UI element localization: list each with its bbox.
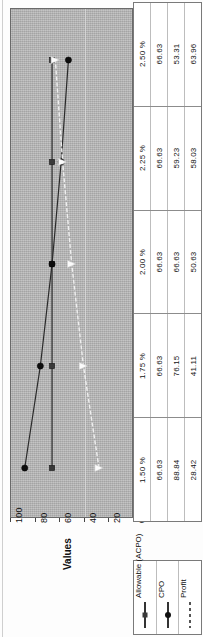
axis-tick xyxy=(35,518,36,522)
data-point xyxy=(37,363,43,369)
table-cell-allowable-text: 66.63 xyxy=(155,459,164,480)
data-table: 1.50 %66.6388.8428.421.75 %66.6376.1541.… xyxy=(133,2,202,522)
figure-left-rule xyxy=(2,0,3,637)
chart-figure: 020406080100 Promotion % Response Values… xyxy=(0,0,203,637)
axis-tick xyxy=(59,518,60,522)
table-cell-cpo-text: 88.84 xyxy=(172,459,181,480)
data-point xyxy=(22,465,28,471)
table-cell-profit: 63.96 xyxy=(185,3,201,106)
series-line xyxy=(25,60,69,468)
table-cell-allowable-text: 66.63 xyxy=(155,44,164,65)
table-cell-profit: 58.03 xyxy=(185,107,201,210)
chart-legend: Allowable (ACPO)CPOProfit xyxy=(133,560,202,635)
axis-tick-label: 20 xyxy=(112,512,122,523)
table-cell-profit: 41.11 xyxy=(185,314,201,417)
data-point xyxy=(65,57,71,63)
table-cell-profit-text: 28.42 xyxy=(189,459,198,480)
plot-area xyxy=(10,8,133,518)
table-cell-cpo-text: 53.31 xyxy=(172,44,181,65)
table-cell-category-text: 1.75 % xyxy=(138,353,147,379)
table-cell-allowable: 66.63 xyxy=(151,211,168,314)
table-row: 2.50 %66.6353.3163.96 xyxy=(134,3,201,106)
diamond-marker-icon xyxy=(167,602,169,628)
table-cell-category: 1.75 % xyxy=(134,314,151,417)
table-cell-category: 1.50 % xyxy=(134,418,151,521)
legend-item: CPO xyxy=(157,561,180,634)
legend-marker xyxy=(142,613,147,618)
table-cell-allowable: 66.63 xyxy=(151,107,168,210)
table-cell-cpo: 76.15 xyxy=(168,314,185,417)
axis-tick xyxy=(108,518,109,522)
dashed-line-icon xyxy=(189,602,191,628)
legend-item: Profit xyxy=(179,561,201,634)
table-cell-allowable-text: 66.63 xyxy=(155,148,164,169)
table-cell-cpo-text: 76.15 xyxy=(172,355,181,376)
series-cpo xyxy=(22,57,72,471)
table-cell-cpo: 53.31 xyxy=(168,3,185,106)
table-cell-allowable-text: 66.63 xyxy=(155,355,164,376)
legend-marker xyxy=(165,612,171,618)
table-cell-cpo: 88.84 xyxy=(168,418,185,521)
table-cell-allowable: 66.63 xyxy=(151,418,168,521)
table-cell-category-text: 2.25 % xyxy=(138,145,147,171)
legend-label: CPO xyxy=(156,580,165,597)
legend-label: Profit xyxy=(179,579,188,598)
axis-tick xyxy=(84,518,85,522)
axis-tick xyxy=(10,518,11,522)
table-cell-cpo: 59.23 xyxy=(168,107,185,210)
table-cell-allowable: 66.63 xyxy=(151,314,168,417)
table-cell-cpo-text: 66.63 xyxy=(172,251,181,272)
table-cell-category: 2.50 % xyxy=(134,3,151,106)
axis-tick-label: 60 xyxy=(63,512,73,523)
data-point xyxy=(49,159,54,164)
table-cell-category: 2.25 % xyxy=(134,107,151,210)
table-cell-cpo-text: 59.23 xyxy=(172,148,181,169)
series-profit xyxy=(51,56,103,471)
axis-tick-label: 100 xyxy=(14,507,24,523)
data-point xyxy=(49,261,55,267)
table-row: 1.75 %66.6376.1541.11 xyxy=(134,313,201,417)
table-cell-profit-text: 63.96 xyxy=(189,44,198,65)
table-cell-category: 2.00 % xyxy=(134,211,151,314)
data-point xyxy=(49,465,54,470)
legend-item: Allowable (ACPO) xyxy=(134,561,157,634)
series-line xyxy=(55,60,99,468)
table-cell-allowable-text: 66.63 xyxy=(155,251,164,272)
axis-tick-label: 80 xyxy=(39,512,49,523)
table-row: 1.50 %66.6388.8428.42 xyxy=(134,417,201,521)
legend-label: Allowable (ACPO) xyxy=(134,533,143,597)
table-cell-profit-text: 58.03 xyxy=(189,148,198,169)
series-layer xyxy=(11,9,133,518)
axis-tick-label: 40 xyxy=(88,512,98,523)
table-cell-category-text: 1.50 % xyxy=(138,457,147,483)
table-cell-cpo: 66.63 xyxy=(168,211,185,314)
table-row: 2.25 %66.6359.2358.03 xyxy=(134,106,201,210)
data-point xyxy=(49,363,54,368)
value-axis-title: Values xyxy=(62,538,73,570)
legend-line xyxy=(189,602,191,628)
table-row: 2.00 %66.6366.6350.63 xyxy=(134,210,201,314)
table-cell-profit-text: 50.63 xyxy=(189,251,198,272)
square-marker-icon xyxy=(144,602,146,628)
table-cell-profit-text: 41.11 xyxy=(189,356,198,376)
table-cell-category-text: 2.00 % xyxy=(138,249,147,275)
table-cell-profit: 28.42 xyxy=(185,418,201,521)
table-cell-category-text: 2.50 % xyxy=(138,41,147,67)
data-point xyxy=(68,260,76,267)
table-cell-allowable: 66.63 xyxy=(151,3,168,106)
table-cell-profit: 50.63 xyxy=(185,211,201,314)
